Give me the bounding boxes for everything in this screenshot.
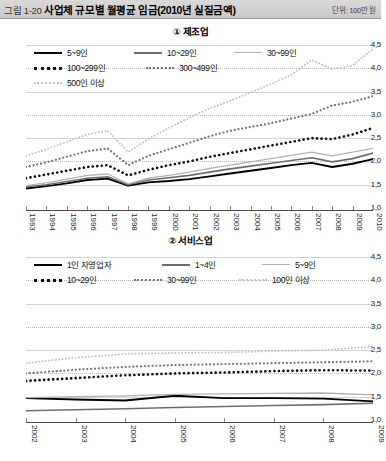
x-axis-tick-label: 2003 [232, 213, 241, 231]
legend-row: 100~299인300~499인 [34, 61, 334, 76]
legend-label: 500인 이상 [67, 76, 105, 91]
x-axis-tick-label: 2000 [171, 213, 180, 231]
legend-swatch-icon [262, 264, 290, 265]
x-axis-tick [175, 418, 176, 422]
x-axis-tick [87, 206, 88, 210]
x-axis-tick-label: 2004 [129, 425, 138, 443]
y-axis-tick-label: 4,0 [357, 63, 381, 72]
legend-swatch-icon [34, 264, 62, 266]
x-axis-tick-label: 2002 [30, 425, 39, 443]
x-axis-tick-label: 2004 [253, 213, 262, 231]
x-axis-tick [274, 418, 275, 422]
legend-swatch-icon [134, 279, 162, 281]
legend-swatch-icon [34, 82, 62, 84]
legend-label: 100인 이상 [272, 273, 310, 288]
x-axis-tick [323, 418, 324, 422]
legend-services: 1인 자영업자1~4인5~9인10~29인30~99인100인 이상 [34, 258, 354, 288]
legend-label: 100~299인 [67, 61, 105, 76]
x-axis-line [26, 210, 373, 211]
y-axis-tick-label: 4,0 [357, 275, 381, 284]
figure-header: 그림 1-20 사업체 규모별 월평균 임금(2010년 실질금액) 단위: 1… [0, 0, 381, 19]
x-axis-tick-label: 2001 [191, 213, 200, 231]
x-axis-tick-label: 2008 [334, 213, 343, 231]
x-axis-tick [353, 206, 354, 210]
x-axis-tick-label: 1995 [69, 213, 78, 231]
panel-1-title: ① 제조업 [0, 24, 381, 38]
y-axis-tick-label: 4,5 [357, 40, 381, 49]
x-axis-tick [224, 418, 225, 422]
x-axis-tick-label: 2003 [80, 425, 89, 443]
legend-label: 300~499인 [179, 61, 217, 76]
x-axis-tick [291, 206, 292, 210]
series-line [26, 346, 373, 363]
x-axis-tick-label: 2005 [273, 213, 282, 231]
legend-label: 30~99인 [167, 273, 196, 288]
x-axis-tick [373, 418, 374, 422]
x-axis-tick [108, 206, 109, 210]
legend-label: 10~29인 [167, 46, 196, 61]
y-axis-tick-label: 3,0 [357, 322, 381, 331]
legend-label: 10~29인 [67, 273, 96, 288]
x-axis-tick [148, 206, 149, 210]
x-axis-tick [125, 418, 126, 422]
x-axis-tick-label: 2006 [228, 425, 237, 443]
legend-swatch-icon [234, 52, 262, 53]
x-axis-tick-label: 1994 [48, 213, 57, 231]
legend-swatch-icon [134, 52, 162, 54]
x-axis-tick [67, 206, 68, 210]
figure-unit-label: 단위: 100만 원 [332, 4, 376, 15]
x-axis-tick-label: 2009 [355, 213, 364, 231]
x-axis-tick-label: 1997 [110, 213, 119, 231]
x-axis-tick-label: 2008 [327, 425, 336, 443]
legend-label: 5~9인 [67, 46, 88, 61]
y-axis-tick-label: 3,0 [357, 110, 381, 119]
figure-number: 그림 1-20 [4, 3, 42, 17]
x-axis-tick [26, 418, 27, 422]
x-axis-tick [76, 418, 77, 422]
chart-manufacturing: 1,01,52,02,53,03,54,04,5 199319941995199… [0, 38, 381, 236]
x-axis-tick [26, 206, 27, 210]
legend-swatch-icon [34, 279, 62, 282]
x-axis-tick [210, 206, 211, 210]
x-axis-tick [271, 206, 272, 210]
legend-label: 1~4인 [195, 258, 216, 273]
y-axis-tick-label: 2,0 [357, 156, 381, 165]
legend-row: 500인 이상 [34, 76, 334, 91]
y-axis-tick-label: 2,5 [357, 133, 381, 142]
legend-row: 5~9인10~29인30~99인 [34, 46, 334, 61]
series-line [26, 403, 373, 410]
x-axis-tick [169, 206, 170, 210]
x-axis-tick [373, 206, 374, 210]
legend-swatch-icon [34, 67, 62, 70]
x-axis-tick-label: 1999 [150, 213, 159, 231]
y-axis-tick-label: 3,5 [357, 299, 381, 308]
x-axis-tick-label: 2005 [179, 425, 188, 443]
x-axis-tick [46, 206, 47, 210]
legend-label: 30~99인 [267, 46, 296, 61]
x-axis-tick-label: 1996 [89, 213, 98, 231]
chart-services: 1,01,52,02,53,03,54,04,5 200220032004200… [0, 250, 381, 461]
x-axis-tick-label: 2007 [278, 425, 287, 443]
y-axis-tick-label: 3,5 [357, 87, 381, 96]
y-axis-tick-label: 1,5 [357, 392, 381, 401]
x-axis-tick [189, 206, 190, 210]
y-axis-tick-label: 2,0 [357, 368, 381, 377]
x-axis-tick [128, 206, 129, 210]
panel-2-title: ② 서비스업 [0, 233, 381, 247]
x-axis-tick-label: 1993 [28, 213, 37, 231]
legend-swatch-icon [162, 264, 190, 266]
x-axis-tick-label: 2006 [293, 213, 302, 231]
y-axis-tick-label: 2,5 [357, 345, 381, 354]
x-axis-tick-label: 2009 [377, 425, 386, 443]
legend-label: 5~9인 [295, 258, 316, 273]
x-axis-tick-label: 2002 [212, 213, 221, 231]
x-axis-tick-label: 1998 [130, 213, 139, 231]
x-axis-tick [312, 206, 313, 210]
x-axis-tick [332, 206, 333, 210]
legend-swatch-icon [146, 67, 174, 69]
figure-title: 사업체 규모별 월평균 임금(2010년 실질금액) [44, 2, 236, 17]
x-axis-line [26, 422, 373, 423]
y-axis-tick-label: 1,5 [357, 180, 381, 189]
legend-label: 1인 자영업자 [67, 258, 111, 273]
series-line [26, 361, 373, 373]
